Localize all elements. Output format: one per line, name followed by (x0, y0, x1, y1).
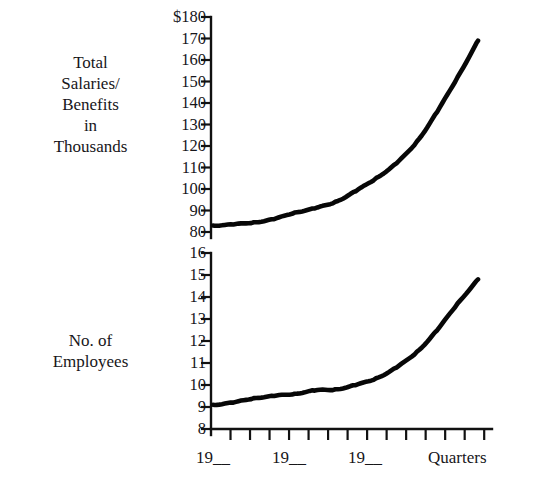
upper-data-curve (213, 41, 478, 226)
upper-axis (201, 17, 211, 238)
lower-data-curve (213, 279, 478, 405)
figure-container: Total Salaries/ Benefits in Thousands No… (0, 0, 553, 479)
plot-surface (0, 0, 553, 479)
shared-x-axis (211, 429, 492, 440)
lower-axis (201, 253, 211, 435)
